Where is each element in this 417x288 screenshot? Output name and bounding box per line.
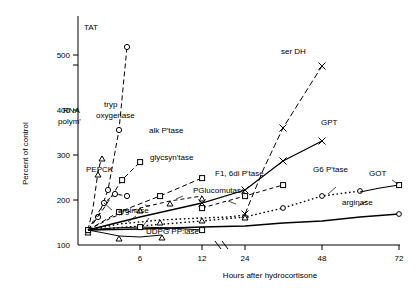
enzyme-activity-line-chart: 500 400 300 200 100 6 12 24 48 72 Percen… [0,0,417,288]
annotation-pepck: PEPCK [86,165,114,174]
annotation-tryp: tryp [104,100,118,109]
annotation-udpg-pplase: UDPG PP:lase [146,227,199,236]
annotation-f16-di-ptase: F1, 6di P'tase [215,169,264,178]
annotation-arginase-right: arginase [342,198,373,207]
x-tick-72: 72 [395,254,404,263]
series-annotations: TAT RNA polym' tryp oxygenase alk P'tase… [58,23,386,236]
x-tick-48: 48 [318,254,327,263]
annotation-polym: polym' [58,117,81,126]
chart-container: 500 400 300 200 100 6 12 24 48 72 Percen… [0,0,417,288]
annotation-glycsyntase: glycsyn'tase [150,153,194,162]
y-tick-100: 100 [57,241,71,250]
x-tick-24: 24 [241,254,250,263]
y-tick-200: 200 [57,196,71,205]
y-tick-500: 500 [57,51,71,60]
annotation-tat: TAT [84,23,98,32]
annotation-pglucomutase: PGlucomutase [193,186,246,195]
annotation-alk-ptase: alk P'tase [149,126,184,135]
annotation-arginase-upper: arginase [118,206,149,215]
y-tick-300: 300 [57,151,71,160]
annotation-ser-dh: ser DH [281,47,306,56]
series-got [360,183,402,192]
series-ser-dh [242,63,326,218]
annotation-rna: RNA [63,106,81,115]
x-tick-6: 6 [138,254,143,263]
annotation-oxygenase: oxygenase [96,111,135,120]
x-tick-12: 12 [198,254,207,263]
annotation-gpt: GPT [321,118,338,127]
series-gpt [88,138,326,231]
series-tat [85,44,129,232]
x-axis-label: Hours after hydrocortisone [223,271,318,280]
annotation-got: GOT [369,169,386,178]
annotation-g6-ptase: G6 P'tase [313,165,348,174]
y-axis-label: Percent of control [21,122,30,185]
